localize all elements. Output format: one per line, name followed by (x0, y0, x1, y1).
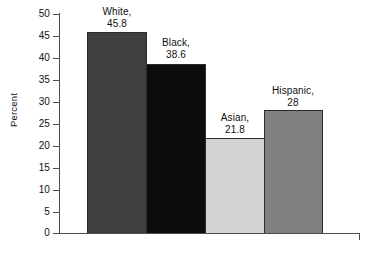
data-label-hispanic: Hispanic, 28 (253, 85, 333, 108)
bar-chart: Percent 50 45 40 35 30 25 20 15 10 5 0 (0, 0, 375, 257)
bar-black[interactable] (146, 64, 206, 234)
data-label-white: White, 45.8 (77, 6, 157, 29)
data-label-asian-name: Asian, (195, 112, 275, 124)
bar-white[interactable] (87, 32, 147, 234)
data-label-black-name: Black, (136, 37, 216, 49)
x-axis-end-tick (359, 233, 360, 240)
data-label-asian: Asian, 21.8 (195, 112, 275, 135)
x-axis-line (59, 233, 360, 234)
data-label-black-value: 38.6 (136, 49, 216, 61)
data-label-hispanic-name: Hispanic, (253, 85, 333, 97)
data-label-white-name: White, (77, 6, 157, 18)
data-label-white-value: 45.8 (77, 18, 157, 30)
bar-asian[interactable] (205, 138, 265, 235)
data-label-asian-value: 21.8 (195, 124, 275, 136)
data-label-hispanic-value: 28 (253, 97, 333, 109)
data-label-black: Black, 38.6 (136, 37, 216, 60)
